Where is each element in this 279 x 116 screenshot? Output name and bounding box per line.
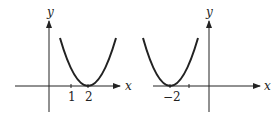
right-parabola bbox=[143, 38, 198, 86]
diagram-canvas: x y 1 2 x y −2 bbox=[0, 0, 279, 116]
right-y-label: y bbox=[205, 5, 213, 19]
left-graph: x y 1 2 bbox=[15, 5, 132, 112]
left-tick-label-2: 2 bbox=[85, 90, 93, 104]
left-tick-label-1: 1 bbox=[68, 90, 76, 104]
right-graph: x y −2 bbox=[143, 5, 271, 112]
right-x-label: x bbox=[264, 79, 271, 93]
left-y-label: y bbox=[46, 5, 54, 19]
left-parabola bbox=[60, 38, 116, 86]
left-x-label: x bbox=[125, 79, 132, 93]
right-tick-label-neg2: −2 bbox=[163, 90, 181, 104]
